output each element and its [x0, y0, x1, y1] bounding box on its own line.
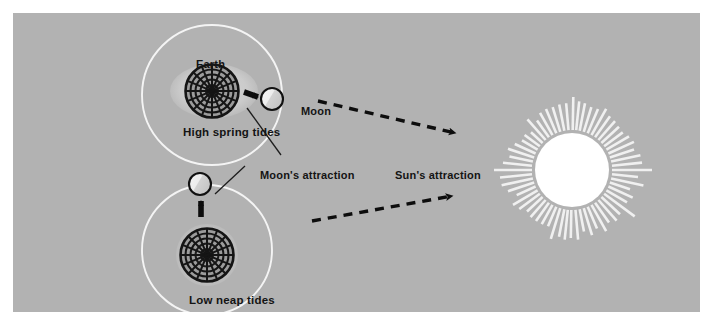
label-moon: Moon	[301, 106, 331, 117]
sun-disc	[535, 133, 609, 207]
moon-lower	[189, 173, 211, 195]
diagram-canvas	[13, 13, 700, 312]
label-earth: Earth	[196, 59, 225, 70]
spring-tide-group	[142, 25, 283, 165]
label-low-neap-tides: Low neap tides	[189, 295, 275, 307]
neap-tide-group	[142, 166, 272, 312]
diagram-stage: Earth High spring tides Moon Moon's attr…	[0, 0, 714, 335]
moon-upper	[261, 88, 283, 110]
earth-globe-upper	[186, 65, 239, 118]
earth-globe-lower	[181, 229, 234, 282]
label-suns-attraction: Sun's attraction	[395, 170, 481, 181]
sun	[494, 97, 652, 240]
label-moons-attraction: Moon's attraction	[260, 170, 355, 181]
sun-attraction-arrow-lower	[312, 196, 452, 221]
diagram-panel: Earth High spring tides Moon Moon's attr…	[13, 13, 700, 312]
sun-attraction-arrow-upper	[318, 101, 455, 133]
label-high-spring-tides: High spring tides	[183, 127, 280, 139]
